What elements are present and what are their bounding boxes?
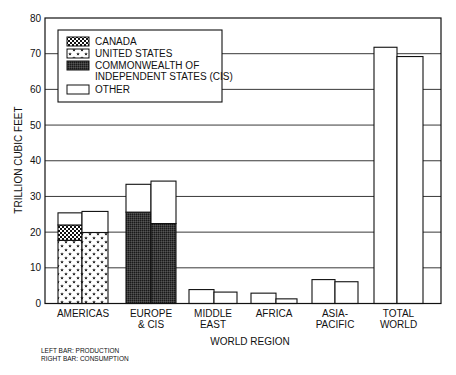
consumption-bar-segment-united-states xyxy=(82,232,108,303)
y-tick-label: 20 xyxy=(30,227,42,238)
y-tick-label: 70 xyxy=(30,48,42,59)
production-bar-segment-other xyxy=(251,293,276,303)
consumption-bar-segment-other xyxy=(82,211,108,232)
x-category-label: AMERICAS xyxy=(57,308,110,319)
legend-swatch-white-icon xyxy=(67,85,89,94)
legend-label: UNITED STATES xyxy=(95,48,173,59)
legend-label: INDEPENDENT STATES (CIS) xyxy=(95,71,233,82)
production-bar-segment-canada xyxy=(58,225,82,240)
x-category-label: EUROPE xyxy=(130,308,173,319)
legend-label: COMMONWEALTH OF xyxy=(95,60,199,71)
legend: CANADAUNITED STATESCOMMONWEALTH OFINDEPE… xyxy=(58,30,233,102)
production-bar-segment-united-states xyxy=(58,240,82,303)
x-category-label: AFRICA xyxy=(256,308,293,319)
production-bar-segment-other xyxy=(126,184,151,212)
y-axis-ticks: 01020304050607080 xyxy=(30,13,42,310)
note-right-bar: RIGHT BAR: CONSUMPTION xyxy=(41,355,129,362)
consumption-bar-segment-other xyxy=(214,292,237,303)
bar-chart: 01020304050607080 AMERICASEUROPE& CISMID… xyxy=(0,0,456,375)
consumption-bar-segment-other xyxy=(397,57,423,304)
production-bar-segment-other xyxy=(312,280,335,304)
legend-label: CANADA xyxy=(95,36,137,47)
y-tick-label: 60 xyxy=(30,84,42,95)
production-bar-segment-other xyxy=(374,47,397,303)
x-category-label: & CIS xyxy=(138,319,164,330)
y-tick-label: 0 xyxy=(35,298,41,309)
y-axis-title: TRILLION CUBIC FEET xyxy=(13,106,24,213)
x-category-label: EAST xyxy=(200,319,226,330)
consumption-bar-segment-other xyxy=(151,181,176,223)
y-tick-label: 30 xyxy=(30,191,42,202)
y-tick-label: 80 xyxy=(30,13,42,24)
x-category-label: WORLD xyxy=(380,319,417,330)
note-left-bar: LEFT BAR: PRODUCTION xyxy=(41,347,119,354)
x-category-label: TOTAL xyxy=(383,308,415,319)
consumption-bar-segment-other xyxy=(335,282,358,304)
y-tick-label: 10 xyxy=(30,262,42,273)
x-category-label: MIDDLE xyxy=(194,308,232,319)
legend-swatch-checker-icon xyxy=(67,37,89,46)
legend-swatch-dark-icon xyxy=(67,61,89,70)
x-category-label: PACIFIC xyxy=(316,319,355,330)
production-bar-segment-other xyxy=(58,213,82,225)
production-bar-segment-commonwealth-of-independent-states-cis xyxy=(126,212,151,303)
y-tick-label: 50 xyxy=(30,120,42,131)
y-tick-label: 40 xyxy=(30,155,42,166)
x-axis-title: WORLD REGION xyxy=(210,336,289,347)
x-axis-category-labels: AMERICASEUROPE& CISMIDDLEEASTAFRICAASIA-… xyxy=(57,308,417,330)
legend-swatch-stars-icon xyxy=(67,49,89,58)
legend-label: OTHER xyxy=(95,84,130,95)
consumption-bar-segment-commonwealth-of-independent-states-cis xyxy=(151,224,176,304)
x-category-label: ASIA- xyxy=(322,308,348,319)
production-bar-segment-other xyxy=(189,290,214,304)
consumption-bar-segment-other xyxy=(276,299,297,304)
